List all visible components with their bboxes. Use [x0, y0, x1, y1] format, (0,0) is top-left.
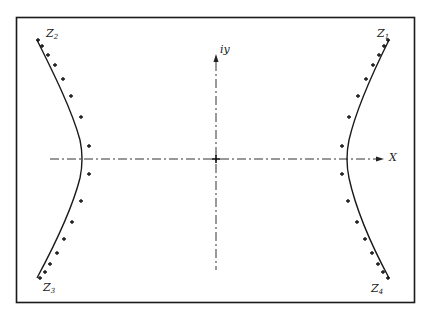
y-axis-label: iy [220, 44, 230, 55]
label-z3-sub: 3 [51, 287, 55, 295]
label-z2-base: Z [46, 27, 54, 40]
label-z2-sub: 2 [54, 33, 58, 41]
label-z2: Z2 [46, 28, 58, 41]
label-z4-base: Z [371, 282, 379, 295]
label-z3: Z3 [43, 282, 55, 295]
x-axis-label: X [389, 152, 397, 163]
label-z4-sub: 4 [379, 288, 383, 296]
label-z3-base: Z [43, 281, 51, 294]
y-axis-arrow-icon [214, 54, 219, 62]
label-z1-base: Z [377, 27, 385, 40]
label-z1: Z1 [377, 28, 389, 41]
label-z4: Z4 [371, 283, 383, 296]
hyperbola-diagram [0, 0, 430, 315]
label-z1-sub: 1 [385, 33, 389, 41]
origin-marker-icon [212, 155, 220, 163]
x-axis-arrow-icon [376, 157, 384, 162]
